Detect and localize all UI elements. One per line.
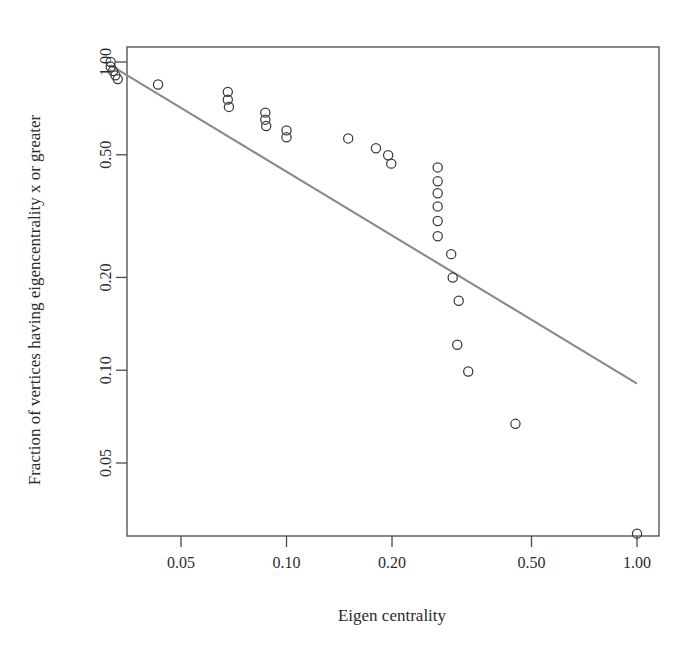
data-point-marker	[433, 216, 442, 225]
y-tick-label: 0.50	[97, 141, 114, 169]
data-point-marker	[454, 296, 463, 305]
fit-line	[111, 65, 637, 383]
data-points	[106, 57, 642, 538]
data-point-marker	[344, 134, 353, 143]
data-point-marker	[262, 121, 271, 130]
x-axis-ticks: 0.050.100.200.501.00	[167, 536, 651, 571]
scatter-plot: 0.050.100.200.501.00 0.050.100.200.501.0…	[0, 0, 694, 651]
data-point-marker	[433, 163, 442, 172]
x-axis-title: Eigen centrality	[338, 606, 447, 625]
data-point-marker	[371, 144, 380, 153]
plot-frame	[127, 47, 659, 536]
x-tick-label: 0.20	[378, 554, 406, 571]
data-point-marker	[433, 232, 442, 241]
y-axis-title: Fraction of vertices having eigencentral…	[25, 114, 44, 485]
y-axis-ticks: 0.050.100.200.501.00	[97, 48, 127, 477]
data-point-marker	[433, 202, 442, 211]
regression-line	[111, 65, 637, 383]
y-tick-label: 0.10	[97, 356, 114, 384]
data-point-marker	[448, 273, 457, 282]
data-point-marker	[153, 80, 162, 89]
data-point-marker	[387, 159, 396, 168]
x-tick-label: 1.00	[623, 554, 651, 571]
data-point-marker	[433, 177, 442, 186]
x-tick-label: 0.50	[517, 554, 545, 571]
data-point-marker	[282, 133, 291, 142]
data-point-marker	[464, 367, 473, 376]
y-tick-label: 0.20	[97, 263, 114, 291]
y-tick-label: 0.05	[97, 449, 114, 477]
data-point-marker	[511, 419, 520, 428]
data-point-marker	[453, 340, 462, 349]
x-tick-label: 0.10	[273, 554, 301, 571]
x-tick-label: 0.05	[167, 554, 195, 571]
data-point-marker	[433, 189, 442, 198]
chart-page: 0.050.100.200.501.00 0.050.100.200.501.0…	[0, 0, 694, 651]
data-point-marker	[447, 250, 456, 259]
